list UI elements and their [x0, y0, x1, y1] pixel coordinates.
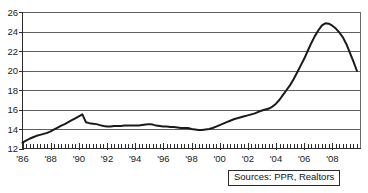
x-tick-label-2000: '00 [208, 154, 232, 164]
x-axis-minor-ticks [24, 144, 358, 149]
x-tick-label-2006: '06 [292, 154, 316, 164]
y-tick-label-16: 16 [0, 105, 18, 115]
line-chart-plot [0, 0, 368, 193]
data-series-group [23, 23, 357, 142]
x-tick-label-1986: '86 [11, 154, 35, 164]
data-series-line [23, 23, 357, 142]
y-tick-label-26: 26 [0, 8, 18, 18]
x-tick-label-1998: '98 [180, 154, 204, 164]
x-tick-label-2002: '02 [236, 154, 260, 164]
chart-container: 1214161820222426 '86'88'90'92'94'96'98'0… [0, 0, 368, 193]
y-tick-label-22: 22 [0, 47, 18, 57]
y-tick-label-18: 18 [0, 86, 18, 96]
x-tick-label-1992: '92 [95, 154, 119, 164]
gridlines-group [23, 13, 361, 130]
x-tick-label-1988: '88 [39, 154, 63, 164]
source-note-text: Sources: PPR, Realtors [234, 171, 334, 182]
x-tick-label-1990: '90 [67, 154, 91, 164]
x-tick-label-2008: '08 [320, 154, 344, 164]
y-tick-label-20: 20 [0, 66, 18, 76]
y-tick-label-14: 14 [0, 125, 18, 135]
x-tick-label-1994: '94 [123, 154, 147, 164]
x-tick-label-1996: '96 [151, 154, 175, 164]
y-tick-label-24: 24 [0, 27, 18, 37]
source-note-box: Sources: PPR, Realtors [228, 170, 340, 186]
y-tick-label-12: 12 [0, 144, 18, 154]
x-tick-label-2004: '04 [264, 154, 288, 164]
